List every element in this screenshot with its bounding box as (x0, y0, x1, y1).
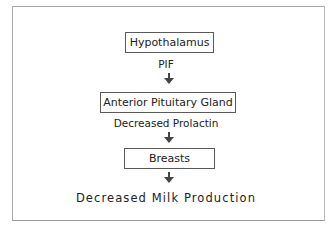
node-breasts: Breasts (124, 148, 215, 169)
down-arrow-icon (164, 73, 174, 84)
node-label: Hypothalamus (130, 36, 210, 49)
node-label: Anterior Pituitary Gland (103, 96, 233, 109)
down-arrow-icon (164, 172, 174, 183)
edge-label-pif: PIF (0, 58, 332, 70)
node-anterior-pituitary: Anterior Pituitary Gland (100, 92, 236, 113)
down-arrow-icon (164, 132, 174, 143)
node-hypothalamus: Hypothalamus (125, 32, 214, 53)
edge-label-decreased-prolactin: Decreased Prolactin (0, 117, 332, 129)
node-label: Breasts (149, 152, 190, 165)
outcome-label: Decreased Milk Production (0, 191, 332, 205)
